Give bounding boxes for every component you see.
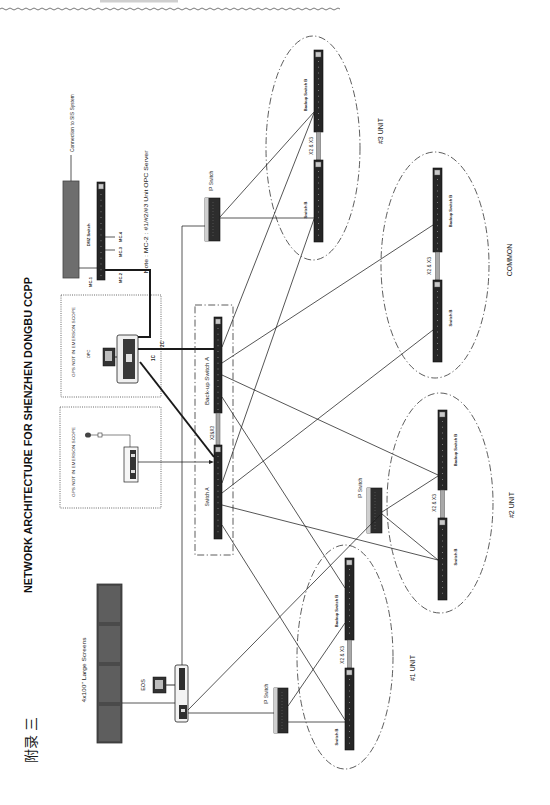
opc-dmz-uplink	[105, 270, 150, 337]
ip-switch-unit2-label: IP Switch	[357, 477, 363, 498]
unit3-name: #3 UNIT	[377, 117, 384, 144]
dmz-switch-label: DMZ Switch	[86, 223, 91, 246]
core-interlink	[216, 413, 220, 445]
diagram-title: NETWORK ARCHITECTURE FOR SHENZHEN DONGBU…	[22, 277, 34, 593]
unit1-backup-label: Backup Switch B	[334, 595, 339, 628]
opc-label: OPC	[86, 350, 91, 359]
link-1c-label: 1C	[151, 354, 156, 361]
large-screens	[97, 584, 122, 743]
ip-switch-unit1	[274, 688, 288, 733]
unit2-interlink-label: X2 & X3	[432, 494, 437, 512]
unit1-interlink-label: X2 & X3	[340, 646, 345, 664]
ip-switch-top-label: IP Switch	[208, 170, 214, 191]
gps-device	[85, 432, 138, 482]
unit2-switch-label: Switch B	[453, 548, 458, 565]
common-backup-label: Backup Switch B	[448, 195, 453, 228]
port-mc3: MC-3	[118, 246, 123, 257]
unit2-interlink	[441, 490, 445, 518]
unit1-switch-label: Switch B	[334, 728, 339, 745]
network-links	[188, 112, 438, 722]
header-wavy-rule	[0, 8, 340, 10]
common-name: COMMON	[506, 244, 513, 277]
port-mc2: MC-2	[118, 272, 123, 283]
common-interlink-label: X2 & X3	[427, 257, 432, 275]
header-cut-text	[100, 0, 178, 3]
ip-switch-unit1-label: IP Switch	[263, 683, 269, 704]
unit2-name: #2 UNIT	[508, 491, 515, 518]
unit1-name: #1 UNIT	[409, 654, 416, 681]
unit2-switch-b	[438, 518, 447, 600]
large-screens-label: 4x100'' Large Screens	[82, 637, 87, 703]
common-backup-switch-b	[433, 168, 442, 252]
port-mc4: MC-4	[118, 231, 123, 242]
ip-switch-top	[205, 198, 220, 241]
common-switch-b	[433, 280, 442, 362]
unit3-interlink	[317, 132, 321, 160]
gps-box-2-label: GPS NOT IN EMERSON SCOPE	[72, 426, 76, 497]
gps-box-opc	[61, 295, 161, 397]
appendix-label: 附录 三	[23, 717, 39, 763]
unit3-backup-label: Backup Switch B	[303, 79, 308, 112]
eos-workstation	[153, 665, 188, 722]
port-mc1: MC-1	[88, 276, 93, 287]
switch-a	[214, 445, 222, 539]
opc-workstation	[103, 335, 138, 383]
unit3-backup-switch-b	[314, 50, 323, 132]
dmz-switch	[97, 182, 105, 280]
unit2-backup-switch-b	[438, 410, 447, 490]
eos-trunk-line	[182, 226, 205, 665]
unit1-switch-b	[345, 668, 354, 750]
sis-connection-label: Connection to SIS System	[70, 94, 75, 152]
note-text: Note : MC-2 : #1/#2/#3 Unit OPC Server	[143, 150, 149, 273]
unit1-interlink	[348, 640, 352, 668]
switch-a-label: Switch A	[204, 487, 210, 507]
backup-switch-a	[214, 317, 222, 413]
firewall-box	[63, 181, 79, 278]
backup-switch-a-label: Back-up Switch A	[204, 356, 210, 405]
eos-label: EOS	[140, 679, 146, 691]
common-interlink	[436, 252, 440, 280]
unit3-interlink-label: X2 & X3	[309, 137, 314, 155]
unit1-backup-switch-b	[345, 558, 354, 640]
unit3-switch-label: Switch B	[303, 201, 308, 218]
gps-box-opc-label: GPS NOT IN EMERSON SCOPE	[72, 306, 76, 377]
common-switch-label: Switch B	[448, 309, 453, 326]
core-interlink-label: X2&X3	[210, 426, 215, 441]
unit3-switch-b	[314, 160, 323, 242]
unit2-backup-label: Backup Switch B	[453, 434, 458, 467]
arrow-icon	[209, 460, 214, 464]
link-2c-label: 2C	[160, 340, 165, 347]
link-1c	[140, 362, 214, 457]
network-architecture-diagram: NETWORK ARCHITECTURE FOR SHENZHEN DONGBU…	[0, 0, 550, 805]
